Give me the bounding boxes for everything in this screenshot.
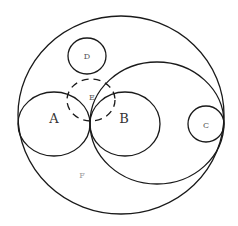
label-d: D xyxy=(84,52,90,61)
label-a: A xyxy=(48,111,59,126)
label-e: E xyxy=(89,93,95,102)
label-f: F xyxy=(79,171,85,180)
label-b: B xyxy=(119,111,129,126)
region-diagram: A B C D E F xyxy=(0,0,238,226)
label-c: C xyxy=(203,121,209,130)
